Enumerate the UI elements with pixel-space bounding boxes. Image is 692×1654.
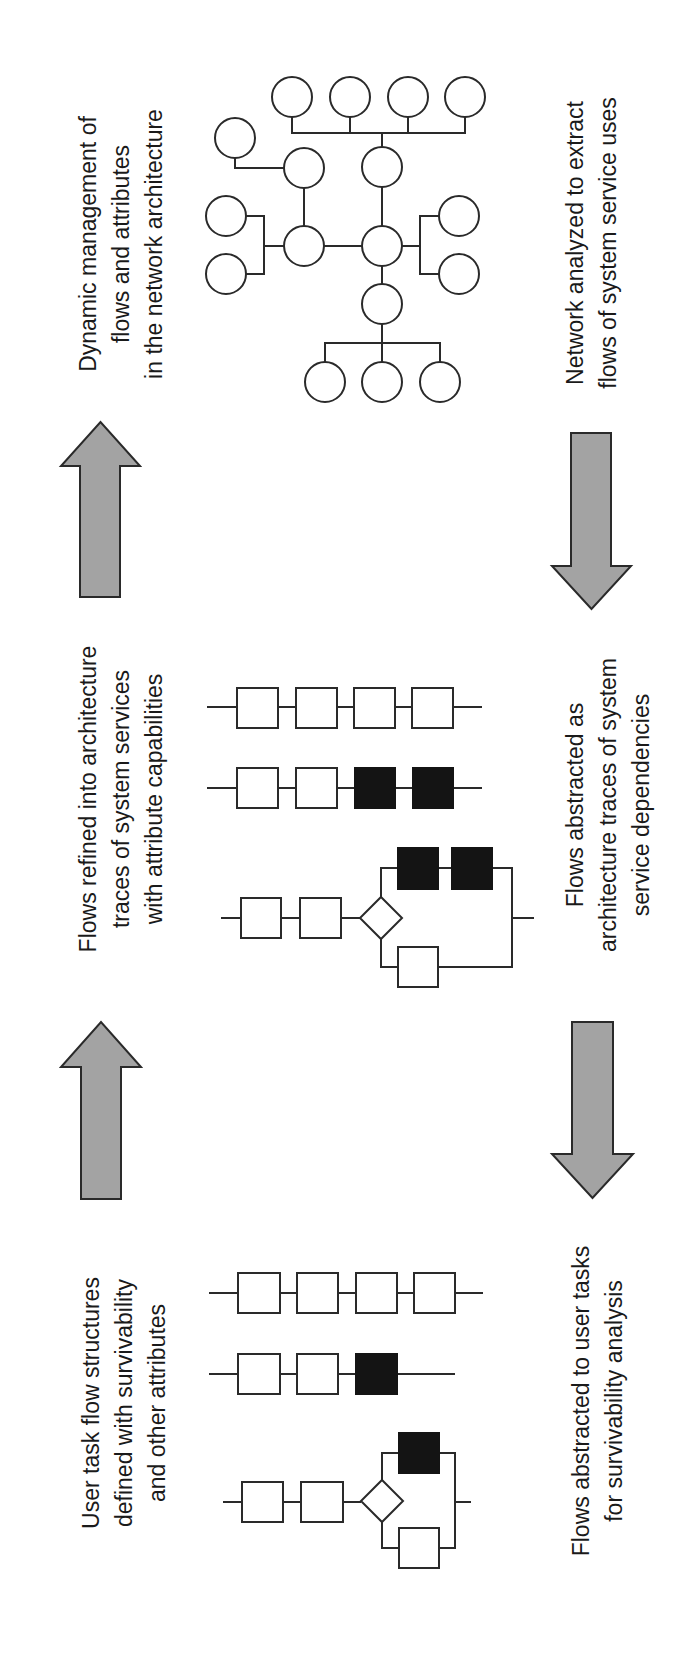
network-node [362, 362, 402, 402]
label-line: User task flow structures [78, 1277, 104, 1529]
network-node [439, 196, 479, 236]
label-line: flows and attributes [108, 145, 134, 343]
label-line: Dynamic management of [75, 116, 101, 372]
service-box-attributed [398, 848, 438, 889]
network-node [305, 362, 345, 402]
label-user-task-flow: User task flow structuresdefined with su… [78, 1277, 170, 1529]
network-node [362, 226, 402, 266]
service-box [356, 1273, 397, 1313]
service-box [297, 1273, 338, 1313]
service-box [354, 688, 395, 728]
label-line: traces of system services [108, 670, 134, 928]
service-box [238, 1273, 280, 1313]
network-node [215, 118, 255, 158]
network-node [388, 77, 428, 117]
label-line: service dependencies [628, 694, 654, 916]
label-line: in the network architecture [141, 109, 167, 379]
service-box-attributed [399, 1433, 439, 1473]
service-box [398, 947, 438, 987]
network-node [420, 362, 460, 402]
service-box [242, 1482, 283, 1522]
service-box-attributed [452, 848, 492, 889]
service-box [300, 898, 341, 938]
label-line: Flows abstracted as [562, 703, 588, 908]
network-node [362, 284, 402, 324]
label-line: with attribute capabilities [141, 674, 167, 926]
service-box [237, 768, 278, 808]
network-node [445, 77, 485, 117]
network-node [206, 196, 246, 236]
service-box-attributed [355, 768, 395, 808]
service-box [296, 768, 337, 808]
label-dynamic-management: Dynamic management offlows and attribute… [75, 109, 167, 379]
service-box [399, 1528, 439, 1568]
label-line: Network analyzed to extract [562, 100, 588, 384]
service-box-attributed [356, 1354, 397, 1394]
label-line: Flows abstracted to user tasks [568, 1246, 594, 1557]
service-box [237, 688, 278, 728]
label-line: defined with survivability [111, 1279, 137, 1528]
service-box [297, 1354, 338, 1394]
service-box [238, 1354, 280, 1394]
network-node [330, 77, 370, 117]
service-box [414, 1273, 455, 1313]
label-flows-refined: Flows refined into architecturetraces of… [75, 646, 167, 953]
network-node [362, 147, 402, 187]
service-box [412, 688, 453, 728]
service-box-attributed [413, 768, 453, 808]
network-node [284, 226, 324, 266]
network-node [284, 148, 324, 188]
network-node [206, 254, 246, 294]
network-node [439, 254, 479, 294]
service-box [241, 898, 281, 938]
service-box [301, 1482, 343, 1522]
label-line: and other attributes [144, 1304, 170, 1502]
label-line: flows of system service uses [595, 97, 621, 388]
network-node [272, 77, 312, 117]
label-line: architecture traces of system [595, 658, 621, 952]
service-box [296, 688, 337, 728]
label-line: for survivability analysis [601, 1280, 627, 1522]
label-line: Flows refined into architecture [75, 646, 101, 953]
flow-analysis-diagram: Dynamic management offlows and attribute… [0, 0, 692, 1654]
